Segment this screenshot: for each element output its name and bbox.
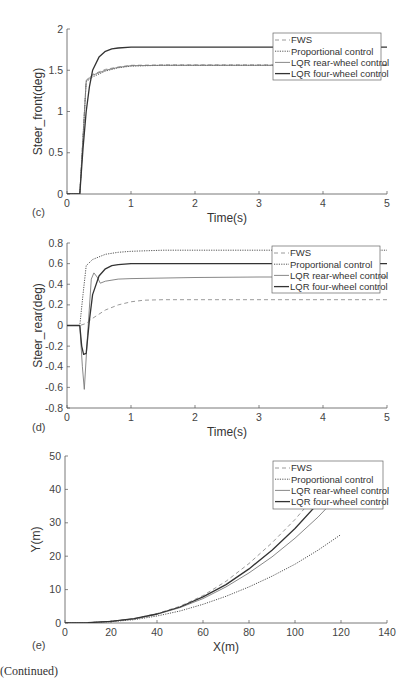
- panel-label: (d): [32, 421, 45, 433]
- legend-entry: FWS: [290, 247, 311, 258]
- y-tick-label: 2: [57, 23, 63, 35]
- y-tick-label: 1.5: [48, 64, 63, 76]
- y-axis-label: Steer_front(deg): [31, 68, 45, 155]
- x-axis-label: Time(s): [207, 425, 247, 439]
- y-tick-label: 10: [49, 583, 61, 595]
- y-tick-label: 40: [49, 483, 61, 495]
- legend-entry: LQR rear-wheel control: [290, 270, 388, 281]
- y-tick-label: 0: [57, 319, 63, 331]
- y-tick-label: 0: [57, 188, 63, 200]
- x-tick-label: 0: [64, 411, 70, 423]
- y-tick-label: 0.5: [48, 146, 63, 158]
- y-tick-label: 20: [49, 550, 61, 562]
- panel-label: (e): [32, 639, 45, 651]
- steer-front-chart: 01234500.511.52Time(s)Steer_front(deg)(c…: [31, 23, 390, 226]
- y-tick-label: 0.8: [48, 237, 63, 249]
- plot-area: [65, 493, 341, 623]
- y-tick-label: 0.2: [48, 298, 63, 310]
- series-line: [67, 300, 387, 326]
- x-tick-label: 60: [197, 626, 209, 638]
- x-tick-label: 1: [128, 197, 134, 209]
- y-tick-label: 0.6: [48, 257, 63, 269]
- continued-caption: (Continued): [0, 664, 58, 679]
- steer-rear-chart: 012345-0.8-0.6-0.4-0.200.20.40.60.8Time(…: [31, 237, 390, 440]
- y-tick-label: 0: [55, 617, 61, 629]
- x-tick-label: 1: [128, 411, 134, 423]
- x-tick-label: 2: [192, 197, 198, 209]
- legend: FWSProportional controlLQR rear-wheel co…: [273, 461, 389, 509]
- y-axis-label: Y(m): [29, 527, 43, 553]
- y-tick-label: 30: [49, 516, 61, 528]
- series-line: [67, 65, 387, 194]
- legend-entry: LQR rear-wheel control: [291, 485, 389, 496]
- x-tick-label: 80: [243, 626, 255, 638]
- trajectory-chart: 02040608010012014001020304050X(m)Y(m)(e)…: [29, 450, 396, 655]
- legend-entry: FWS: [291, 34, 312, 45]
- legend-entry: Proportional control: [291, 46, 373, 57]
- legend: FWSProportional controlLQR rear-wheel co…: [272, 246, 388, 293]
- series-line: [65, 494, 325, 623]
- x-tick-label: 5: [384, 411, 390, 423]
- x-tick-label: 4: [320, 411, 326, 423]
- x-tick-label: 20: [105, 626, 117, 638]
- y-tick-label: -0.2: [45, 340, 63, 352]
- x-tick-label: 3: [256, 197, 262, 209]
- x-tick-label: 4: [320, 197, 326, 209]
- y-tick-label: 50: [49, 450, 61, 462]
- legend-entry: LQR four-wheel control: [290, 281, 388, 292]
- x-tick-label: 0: [64, 197, 70, 209]
- legend-entry: FWS: [291, 462, 312, 473]
- series-line: [65, 535, 341, 624]
- x-tick-label: 2: [192, 411, 198, 423]
- x-axis-label: X(m): [213, 640, 239, 654]
- x-tick-label: 120: [332, 626, 350, 638]
- legend-entry: Proportional control: [291, 474, 373, 485]
- x-tick-label: 5: [384, 197, 390, 209]
- legend-entry: LQR four-wheel control: [291, 496, 389, 507]
- series-line: [65, 498, 336, 623]
- figure-canvas: 01234500.511.52Time(s)Steer_front(deg)(c…: [0, 0, 409, 685]
- y-axis-label: Steer_rear(deg): [31, 283, 45, 368]
- y-tick-label: -0.8: [45, 402, 63, 414]
- y-tick-label: 0.4: [48, 278, 63, 290]
- x-axis-label: Time(s): [207, 211, 247, 225]
- x-tick-label: 140: [378, 626, 396, 638]
- legend-entry: LQR four-wheel control: [291, 68, 389, 79]
- series-line: [67, 65, 387, 194]
- legend: FWSProportional controlLQR rear-wheel co…: [273, 33, 389, 80]
- y-tick-label: 1: [57, 105, 63, 117]
- legend-entry: Proportional control: [290, 259, 372, 270]
- x-tick-label: 3: [256, 411, 262, 423]
- x-tick-label: 100: [286, 626, 304, 638]
- y-tick-label: -0.4: [45, 360, 63, 372]
- x-tick-label: 40: [151, 626, 163, 638]
- series-line: [67, 65, 387, 194]
- y-tick-label: -0.6: [45, 381, 63, 393]
- legend-entry: LQR rear-wheel control: [291, 57, 389, 68]
- panel-label: (c): [32, 206, 45, 218]
- x-tick-label: 0: [62, 626, 68, 638]
